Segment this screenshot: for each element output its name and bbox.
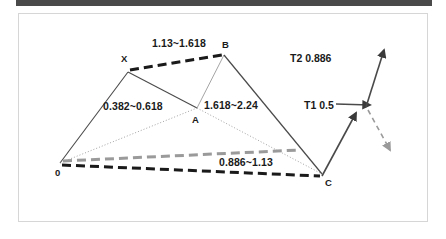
measure-O-C (62, 165, 320, 176)
projection-line-group (60, 108, 322, 174)
t2-arrow-up (366, 50, 384, 107)
point-label-C: C (325, 178, 332, 188)
t1-arrow (336, 104, 370, 105)
screenshot-root: 1.13~1.618 0.382~0.618 1.618~2.24 0.886~… (0, 0, 446, 239)
target-arrow-group (322, 50, 390, 176)
measure-line-group (62, 55, 320, 176)
point-label-A: A (192, 115, 199, 125)
ratio-label-oc: 0.886~1.13 (219, 157, 273, 168)
measure-X-B (130, 55, 222, 70)
ratio-label-ox: 0.382~0.618 (103, 101, 163, 112)
target-label-t1: T1 0.5 (304, 100, 334, 111)
point-label-X: X (121, 54, 127, 64)
top-bar (16, 0, 432, 6)
point-label-O: 0 (55, 168, 60, 178)
point-label-B: B (222, 40, 229, 50)
ratio-label-xb: 1.13~1.618 (152, 38, 206, 49)
entry-arrow-up-from-C (322, 113, 356, 176)
target-label-t2: T2 0.886 (290, 53, 331, 64)
ratio-label-ab: 1.618~2.24 (204, 100, 258, 111)
invalidation-arrow-down (368, 110, 390, 150)
